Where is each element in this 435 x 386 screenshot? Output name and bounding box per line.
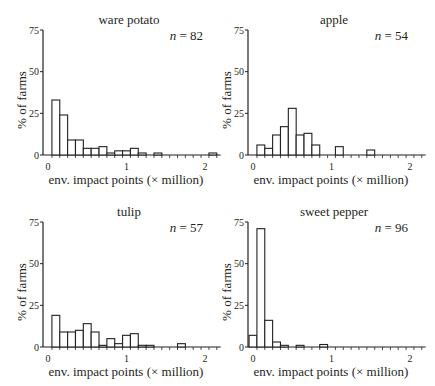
histogram-bar [146,345,154,347]
x-tick-label: 2 [203,353,208,364]
panel-tulip: tulip n = 57 0255075012 % of farms env. … [14,204,221,379]
y-tick-label: 0 [239,150,244,161]
histogram-bar [320,345,328,348]
histogram-bar [288,108,296,155]
y-tick-label: 25 [234,300,244,311]
y-tick-label: 50 [29,258,39,269]
histogram-bar [304,133,312,155]
panel-ware-potato: ware potato n = 82 0255075012 % of farms… [14,12,221,187]
y-tick-label: 0 [34,150,39,161]
bars [52,100,217,155]
histogram-bar [130,334,138,347]
histogram-bar [249,335,257,347]
x-tick-label: 0 [46,353,51,364]
y-tick-label: 0 [239,342,244,353]
histogram-bar [312,145,320,155]
y-tick-label: 75 [234,217,244,228]
panel-title: sweet pepper [300,204,369,219]
x-tick-label: 2 [408,353,413,364]
x-tick-label: 1 [329,353,334,364]
panel-apple: apple n = 54 0255075012 % of farms env. … [219,12,426,187]
histogram-bar [265,320,273,347]
histogram-bar [99,345,107,347]
histogram-bar [75,140,83,155]
panel-title: ware potato [98,12,159,27]
bars [249,229,328,347]
sample-size-label: n = 96 [375,220,409,235]
x-tick-label: 0 [46,161,51,172]
histogram-bar [60,332,68,347]
histogram-bar [273,135,281,155]
x-axis-label: env. impact points (× million) [49,172,204,187]
histogram-bar [123,151,131,155]
histogram-bar [91,148,99,155]
histogram-bar [280,345,288,347]
y-tick-label: 50 [234,66,244,77]
histogram-figure: ware potato n = 82 0255075012 % of farms… [0,0,435,386]
histogram-bar [257,229,265,347]
panel-title: apple [320,12,348,27]
histogram-bar [154,153,162,155]
y-tick-label: 75 [234,25,244,36]
histogram-bar [296,135,304,155]
histogram-bar [52,315,60,347]
histogram-bar [75,330,83,347]
x-tick-label: 0 [251,161,256,172]
y-axis-label: % of farms [219,263,234,321]
histogram-bar [367,150,375,155]
x-tick-label: 2 [203,161,208,172]
y-axis-label: % of farms [14,263,29,321]
y-tick-label: 25 [234,108,244,119]
y-tick-label: 50 [234,258,244,269]
x-tick-label: 1 [124,353,129,364]
histogram-bar [115,344,123,347]
histogram-bar [273,342,281,347]
x-axis-label: env. impact points (× million) [49,364,204,379]
x-axis-label: env. impact points (× million) [254,364,409,379]
histogram-bar [68,332,76,347]
histogram-bar [257,145,265,155]
histogram-bar [107,339,115,347]
histogram-bar [83,148,91,155]
panel-title: tulip [117,204,141,219]
histogram-bar [138,345,146,347]
histogram-bar [335,147,343,155]
histogram-bar [60,115,68,155]
x-tick-label: 1 [124,161,129,172]
y-tick-label: 25 [29,300,39,311]
y-tick-label: 75 [29,217,39,228]
x-tick-label: 2 [408,161,413,172]
panel-sweet-pepper: sweet pepper n = 96 0255075012 % of farm… [219,204,426,379]
histogram-bar [115,151,123,155]
y-axis-label: % of farms [14,71,29,129]
sample-size-label: n = 54 [375,28,409,43]
histogram-bar [138,153,146,155]
histogram-bar [83,324,91,347]
x-tick-label: 1 [329,161,334,172]
bars [52,315,185,347]
y-axis-label: % of farms [219,71,234,129]
histogram-bar [99,147,107,155]
histogram-bar [265,148,273,155]
histogram-bar [91,332,99,347]
histogram-bar [280,127,288,155]
sample-size-label: n = 57 [170,220,204,235]
histogram-bar [107,153,115,155]
histogram-bar [296,345,304,347]
y-tick-label: 75 [29,25,39,36]
sample-size-label: n = 82 [170,28,203,43]
bars [257,108,375,155]
x-axis-label: env. impact points (× million) [254,172,409,187]
histogram-bar [130,148,138,155]
histogram-bar [68,140,76,155]
histogram-bar [178,344,186,347]
histogram-bar [123,335,131,347]
histogram-bar [209,153,217,155]
y-tick-label: 0 [34,342,39,353]
y-tick-label: 50 [29,66,39,77]
x-tick-label: 0 [251,353,256,364]
y-tick-label: 25 [29,108,39,119]
histogram-bar [52,100,60,155]
